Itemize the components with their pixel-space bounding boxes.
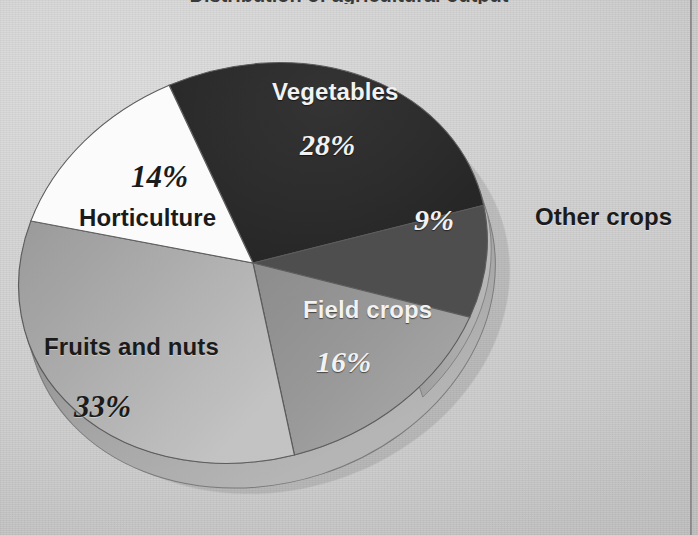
label-fruits-and-nuts-name: Fruits and nuts — [44, 333, 219, 361]
page-edge-line — [690, 0, 692, 535]
label-vegetables-value: 28% — [300, 128, 355, 162]
label-fruits-and-nuts-value: 33% — [74, 389, 131, 425]
label-other-crops-name: Other crops — [535, 203, 672, 231]
label-vegetables-name: Vegetables — [272, 78, 398, 106]
label-other-crops-value: 9% — [414, 203, 454, 237]
label-field-crops-name: Field crops — [303, 296, 432, 324]
label-horticulture-name: Horticulture — [79, 204, 216, 232]
page-title-cutoff: Distribution of agricultural output — [0, 0, 698, 4]
label-horticulture-value: 14% — [131, 159, 188, 195]
pie-slices — [0, 3, 540, 523]
label-field-crops-value: 16% — [316, 345, 371, 379]
